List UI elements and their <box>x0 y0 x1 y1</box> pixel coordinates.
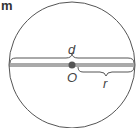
circle-diagram: d O r <box>0 0 139 128</box>
center-label: O <box>67 70 77 85</box>
center-point <box>69 62 76 69</box>
diameter-label: d <box>68 42 76 57</box>
radius-label: r <box>103 76 108 91</box>
radius-brace <box>78 67 134 76</box>
